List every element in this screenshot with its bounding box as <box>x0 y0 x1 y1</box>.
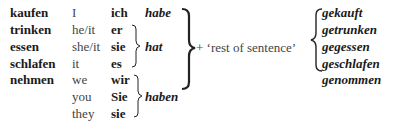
participle: genommen <box>322 72 381 88</box>
brace-hat <box>132 25 140 67</box>
brace-participles <box>311 9 322 71</box>
brace-aux <box>182 9 195 89</box>
rest-of-sentence-label: + ‘rest of sentence’ <box>196 40 296 56</box>
participle: gegessen <box>322 39 370 55</box>
participle: gekauft <box>322 5 362 21</box>
participle: geschlafen <box>322 56 380 72</box>
brace-haben <box>134 75 142 117</box>
participle: getrunken <box>322 22 377 38</box>
